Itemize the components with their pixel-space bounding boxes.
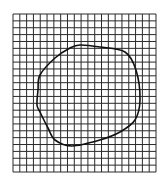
grid-diagram	[0, 0, 165, 187]
grid-lines	[13, 14, 156, 172]
